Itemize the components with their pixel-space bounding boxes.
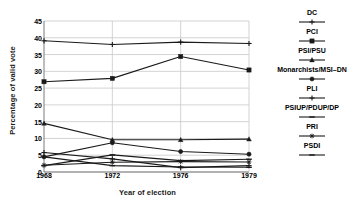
data-point-0-2 bbox=[178, 40, 183, 45]
circle-marker bbox=[262, 74, 362, 84]
data-point-0-3 bbox=[246, 41, 251, 46]
series-line-2 bbox=[44, 123, 249, 139]
x-tick-1968: 1968 bbox=[36, 172, 52, 179]
data-point-3-3 bbox=[247, 152, 251, 156]
data-point-1-3 bbox=[247, 68, 251, 72]
legend-label: PSDI bbox=[262, 141, 362, 150]
legend-item-psiup-pdup-dp[interactable]: PSIUP/PDUP/DP bbox=[262, 103, 362, 122]
star-marker bbox=[262, 131, 362, 141]
data-point-0-1 bbox=[110, 42, 115, 47]
legend-label: PRI bbox=[262, 122, 362, 131]
legend-label: PLI bbox=[262, 84, 362, 93]
data-point-1-1 bbox=[110, 76, 114, 80]
data-point-6-3 bbox=[247, 160, 252, 165]
series-line-1 bbox=[44, 57, 249, 82]
data-point-1-2 bbox=[179, 54, 183, 58]
series-dc bbox=[41, 38, 251, 47]
series-line-3 bbox=[44, 143, 249, 157]
x-tick-1972: 1972 bbox=[105, 172, 121, 179]
plus-marker bbox=[262, 93, 362, 103]
legend-item-psdi[interactable]: PSDI bbox=[262, 141, 362, 160]
x-axis-label: Year of election bbox=[40, 188, 255, 197]
legend-label: Monarchists/MSI–DN bbox=[262, 65, 362, 74]
x-axis-tick-labels: 1968197219761979 bbox=[0, 172, 362, 186]
series-line-0 bbox=[44, 41, 249, 45]
legend-item-pci[interactable]: PCI bbox=[262, 27, 362, 46]
plus-marker bbox=[262, 17, 362, 27]
data-point-3-2 bbox=[179, 149, 183, 153]
legend-label: PCI bbox=[262, 27, 362, 36]
data-point-4-0 bbox=[41, 150, 46, 155]
dash-marker bbox=[262, 150, 362, 160]
data-point-0-0 bbox=[41, 38, 46, 43]
data-point-1-0 bbox=[42, 80, 46, 84]
x-tick-1976: 1976 bbox=[173, 172, 189, 179]
legend-item-psi-psu[interactable]: PSI/PSU bbox=[262, 46, 362, 65]
legend-label: PSI/PSU bbox=[262, 46, 362, 55]
legend-label: PSIUP/PDUP/DP bbox=[262, 103, 362, 112]
dash-marker bbox=[262, 112, 362, 122]
election-results-line-chart: Percentage of valid vote 051015202530354… bbox=[0, 0, 362, 206]
triangle-marker bbox=[262, 55, 362, 65]
legend-item-monarchists-msi-dn[interactable]: Monarchists/MSI–DN bbox=[262, 65, 362, 84]
legend-item-dc[interactable]: DC bbox=[262, 8, 362, 27]
x-tick-1979: 1979 bbox=[241, 172, 257, 179]
legend-item-pri[interactable]: PRI bbox=[262, 122, 362, 141]
legend-item-pli[interactable]: PLI bbox=[262, 84, 362, 103]
data-point-6-1 bbox=[110, 160, 115, 165]
square-marker bbox=[262, 36, 362, 46]
legend-label: DC bbox=[262, 8, 362, 17]
data-point-3-1 bbox=[110, 141, 114, 145]
chart-legend: DCPCIPSI/PSUMonarchists/MSI–DNPLIPSIUP/P… bbox=[262, 8, 362, 160]
series-monarchists-msi-dn bbox=[42, 141, 251, 159]
series-pci bbox=[42, 54, 251, 83]
